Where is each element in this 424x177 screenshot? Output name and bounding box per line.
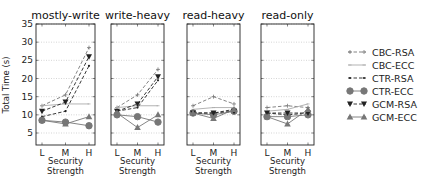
y-tick-label: 10 [22,110,34,120]
legend-item-GCM-RSA: GCM-RSA [347,99,417,110]
x-axis-title: Security [270,156,305,166]
legend-item-GCM-ECC: GCM-ECC [347,112,418,123]
legend-marker [361,88,367,94]
legend-marker [349,77,351,79]
y-axis-label: Total Time (s) [1,56,11,114]
y-tick-label: 30 [22,37,34,47]
data-point-marker [286,104,290,108]
data-point-marker [64,93,68,97]
legend-label: CTR-RSA [372,73,414,84]
legend-marker [347,114,354,120]
data-point-marker [86,123,92,129]
x-tick-label: L [190,148,195,158]
legend-label: CTR-ECC [372,86,414,97]
panel-title: write-heavy [105,9,171,22]
y-tick-label: 25 [22,55,33,65]
data-point-marker [39,109,45,115]
data-point-marker [134,124,141,130]
x-tick-label: L [39,148,44,158]
series-CTR-RSA [41,65,90,118]
legend-marker [361,114,368,120]
chart-figure: Total Time (s) mostly-write5101520253035… [0,0,424,177]
x-tick-label: H [86,148,93,158]
x-axis-title: Strength [119,166,156,176]
legend-item-CBC-ECC: CBC-ECC [348,60,415,71]
series-CBC-ECC [192,108,236,110]
panels: mostly-write5101520253035LMHSecurityStre… [22,9,315,176]
series-CTR-ECC [114,112,161,126]
data-point-marker [136,93,140,97]
legend-label: GCM-ECC [372,112,417,123]
data-point-marker [86,54,92,60]
x-tick-label: H [231,148,238,158]
legend-label: CBC-RSA [372,47,415,58]
x-tick-label: L [264,148,269,158]
x-tick-label: H [155,148,162,158]
x-axis-title: Security [120,156,155,166]
y-axis-title: Total Time (s) [1,56,11,114]
legend: CBC-RSACBC-ECCCTR-RSACTR-ECCGCM-RSAGCM-E… [347,47,418,123]
multi-panel-line-chart: Total Time (s) mostly-write5101520253035… [0,0,424,177]
panel-read-only: read-onlyLMHSecurityStrength [261,9,314,176]
data-point-marker [232,102,236,106]
legend-marker [348,50,352,54]
data-point-marker [156,67,160,71]
panel-read-heavy: read-heavyLMHSecurityStrength [182,9,245,176]
panel-title: mostly-write [31,9,100,22]
legend-item-CTR-RSA: CTR-RSA [348,73,414,84]
series-line [42,48,89,106]
x-tick-label: L [114,148,119,158]
legend-item-CTR-ECC: CTR-ECC [347,86,414,97]
data-point-marker [265,106,269,110]
data-point-marker [155,111,162,117]
y-tick-label: 5 [27,128,33,138]
data-point-marker [155,119,161,125]
series-CBC-RSA [265,104,310,110]
x-axis-title: Security [196,156,231,166]
legend-item-CBC-RSA: CBC-RSA [348,47,415,58]
panel-title: read-heavy [182,9,245,22]
data-point-marker [64,110,66,112]
x-axis-title: Security [48,156,83,166]
data-point-marker [87,46,91,50]
panel-write-heavy: write-heavyLMHSecurityStrength [105,9,171,176]
legend-marker [347,88,353,94]
legend-marker [363,77,365,79]
x-axis-title: Strength [269,166,306,176]
data-point-marker [191,104,195,108]
data-point-marker [305,106,312,112]
y-tick-label: 20 [22,74,34,84]
panel-title: read-only [261,9,314,22]
legend-label: CBC-ECC [372,60,415,71]
legend-marker [362,50,366,54]
y-tick-label: 15 [22,92,33,102]
x-axis-title: Strength [195,166,232,176]
y-tick-label: 35 [22,19,33,29]
data-point-marker [86,113,93,119]
legend-marker [347,102,353,108]
data-point-marker [212,95,216,99]
series-line [42,66,89,117]
panel-mostly-write: mostly-write5101520253035LMHSecurityStre… [22,9,100,176]
x-axis-title: Strength [47,166,84,176]
data-point-marker [134,113,140,119]
x-tick-label: H [305,148,312,158]
data-point-marker [88,65,90,67]
legend-label: GCM-RSA [372,99,417,110]
